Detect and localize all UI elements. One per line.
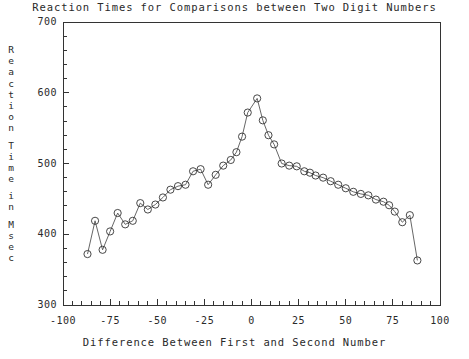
axes	[63, 22, 440, 305]
data-series-line	[88, 98, 418, 260]
axis-ticks	[63, 22, 440, 305]
data-point-markers	[84, 95, 421, 264]
plot-area	[0, 0, 469, 359]
chart-figure: Reaction Times for Comparisons between T…	[0, 0, 469, 359]
